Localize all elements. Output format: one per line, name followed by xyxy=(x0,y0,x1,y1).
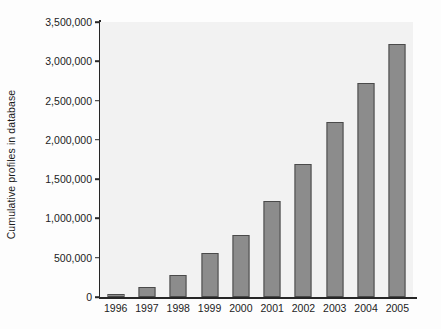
bar-slot xyxy=(382,22,413,297)
bar-slot xyxy=(257,22,288,297)
bar xyxy=(358,83,375,297)
bar-slot xyxy=(163,22,194,297)
y-axis-tick-label: 0 xyxy=(86,291,92,303)
y-axis-tick-mark xyxy=(95,296,100,298)
y-axis-tick-label: 1,500,000 xyxy=(45,173,92,185)
bar xyxy=(138,287,155,297)
y-axis-tick-label: 2,000,000 xyxy=(45,134,92,146)
x-axis-tick-label: 2002 xyxy=(292,302,315,314)
x-axis-tick-labels: 1996199719981999200020012002200320042005 xyxy=(100,300,413,320)
y-axis-title: Cumulative profiles in database xyxy=(0,0,22,329)
x-axis-tick-label: 1998 xyxy=(167,302,190,314)
bar xyxy=(107,294,124,297)
bar xyxy=(389,44,406,297)
y-axis-tick-labels: 0500,0001,000,0001,500,0002,000,0002,500… xyxy=(34,22,92,297)
bar xyxy=(170,275,187,297)
y-axis-tick-label: 2,500,000 xyxy=(45,95,92,107)
y-axis-tick-label: 500,000 xyxy=(54,252,92,264)
x-axis-tick-label: 2000 xyxy=(229,302,252,314)
bar-slot xyxy=(288,22,319,297)
y-axis-tick-mark xyxy=(95,60,100,62)
x-axis-tick-label: 2005 xyxy=(386,302,409,314)
y-axis-tick-mark xyxy=(95,100,100,102)
bar xyxy=(326,122,343,297)
bar xyxy=(201,253,218,297)
bar-slot xyxy=(131,22,162,297)
bar-slot xyxy=(350,22,381,297)
y-axis-tick-mark xyxy=(95,218,100,220)
bar-series xyxy=(100,22,413,297)
bar-slot xyxy=(100,22,131,297)
y-axis-tick-label: 1,000,000 xyxy=(45,212,92,224)
y-axis-tick-label: 3,000,000 xyxy=(45,55,92,67)
y-axis-tick-mark xyxy=(95,257,100,259)
bar-chart-figure: Cumulative profiles in database 0500,000… xyxy=(0,0,441,329)
y-axis-tick-label: 3,500,000 xyxy=(45,16,92,28)
bar xyxy=(295,164,312,297)
y-axis-tick-mark xyxy=(95,178,100,180)
x-axis-tick-label: 1999 xyxy=(198,302,221,314)
x-axis-tick-label: 2001 xyxy=(260,302,283,314)
x-axis-tick-label: 2003 xyxy=(323,302,346,314)
x-axis-tick-label: 1996 xyxy=(104,302,127,314)
x-axis-tick-label: 2004 xyxy=(354,302,377,314)
bar xyxy=(264,201,281,297)
x-axis-tick-label: 1997 xyxy=(135,302,158,314)
bar-slot xyxy=(225,22,256,297)
y-axis-tick-mark xyxy=(95,139,100,141)
bar xyxy=(232,235,249,297)
bar-slot xyxy=(194,22,225,297)
y-axis-tick-mark xyxy=(95,21,100,23)
bar-slot xyxy=(319,22,350,297)
